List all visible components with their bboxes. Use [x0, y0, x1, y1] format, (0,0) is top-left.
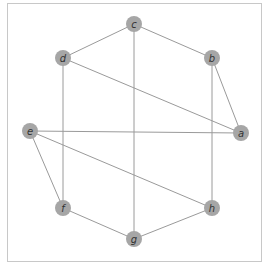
node-label: a: [238, 128, 244, 139]
node-label: h: [209, 203, 215, 214]
node-label: c: [131, 19, 137, 30]
node-label: e: [27, 126, 33, 137]
node-e: e: [22, 123, 38, 139]
node-label: g: [131, 234, 137, 245]
node-label: d: [60, 53, 67, 64]
node-f: f: [55, 200, 71, 216]
node-d: d: [55, 50, 71, 66]
graph-diagram: abcdefgh: [0, 0, 268, 267]
node-a: a: [233, 125, 249, 141]
node-b: b: [204, 50, 220, 66]
node-g: g: [126, 231, 142, 247]
node-h: h: [204, 200, 220, 216]
node-label: b: [209, 53, 215, 64]
node-c: c: [126, 16, 142, 32]
